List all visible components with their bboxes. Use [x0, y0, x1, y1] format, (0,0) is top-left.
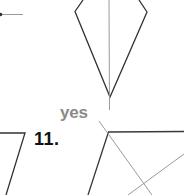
kite-figure: [75, 0, 147, 97]
geometry-figures: [0, 0, 184, 195]
point-icon: [0, 13, 2, 17]
parallelogram-figure: [88, 132, 184, 196]
left-partial-quadrilateral: [0, 133, 25, 195]
textbook-page-fragment: yes 11.: [0, 0, 184, 195]
kite-symmetry-line: [109, 0, 110, 110]
answer-text: yes: [60, 104, 88, 121]
left-segment-figure: [0, 13, 23, 17]
problem-number: 11.: [34, 130, 60, 148]
parallelogram-cross-line: [128, 154, 184, 195]
